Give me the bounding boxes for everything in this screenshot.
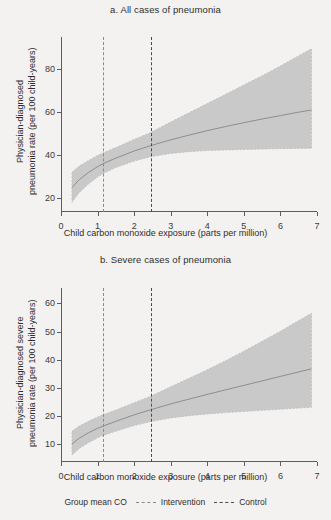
y-tick-label: 40 bbox=[45, 150, 55, 160]
panel-b-x-axis bbox=[61, 461, 317, 462]
panel-a-title: a. All cases of pneumonia bbox=[0, 4, 331, 15]
y-tick-label: 20 bbox=[45, 411, 55, 421]
panel-b-y-axis-label: Physician-diagnosed severe pneumonia rat… bbox=[14, 278, 38, 468]
x-tick bbox=[244, 462, 245, 466]
panel-b-x-axis-label: Child carbon monoxide exposure (parts pe… bbox=[0, 472, 331, 482]
x-tick bbox=[98, 212, 99, 216]
panel-b-data-layer bbox=[61, 288, 317, 462]
panel-b-title: b. Severe cases of pneumonia bbox=[0, 254, 331, 265]
x-tick bbox=[171, 462, 172, 466]
x-tick bbox=[171, 212, 172, 216]
y-tick bbox=[57, 444, 61, 445]
x-tick bbox=[207, 462, 208, 466]
reference-line-control bbox=[151, 37, 152, 212]
panel-b-svg bbox=[61, 288, 317, 462]
y-tick-label: 30 bbox=[45, 383, 55, 393]
x-tick bbox=[280, 212, 281, 216]
legend-title: Group mean CO bbox=[64, 497, 126, 507]
panel-a-data-layer bbox=[61, 37, 317, 212]
y-tick-label: 60 bbox=[45, 107, 55, 117]
y-tick-label: 80 bbox=[45, 64, 55, 74]
x-tick bbox=[317, 212, 318, 216]
panel-a-x-axis-label: Child carbon monoxide exposure (parts pe… bbox=[0, 228, 331, 238]
y-tick bbox=[57, 112, 61, 113]
panel-b-ci-band bbox=[72, 313, 312, 455]
y-tick bbox=[57, 416, 61, 417]
x-tick bbox=[244, 212, 245, 216]
y-tick-label: 40 bbox=[45, 355, 55, 365]
x-tick bbox=[98, 462, 99, 466]
y-tick-label: 60 bbox=[45, 298, 55, 308]
y-tick bbox=[57, 388, 61, 389]
panel-severe-cases: b. Severe cases of pneumonia Physician-d… bbox=[0, 250, 331, 485]
y-tick bbox=[57, 332, 61, 333]
panel-b-plot-area: 01234567 102030405060 bbox=[61, 288, 317, 462]
legend-dash-intervention-icon bbox=[136, 502, 156, 503]
reference-line-control bbox=[151, 288, 152, 462]
panel-a-y-axis-label: Physician-diagnosed pneumonia rate (per … bbox=[14, 26, 38, 216]
reference-line-intervention bbox=[103, 37, 104, 212]
y-tick bbox=[57, 69, 61, 70]
x-tick bbox=[280, 462, 281, 466]
panel-a-x-axis bbox=[61, 211, 317, 212]
panel-a-ci-band bbox=[72, 49, 312, 203]
x-tick bbox=[61, 462, 62, 466]
legend-label-intervention: Intervention bbox=[161, 497, 205, 507]
y-tick bbox=[57, 198, 61, 199]
y-tick-label: 20 bbox=[45, 193, 55, 203]
x-tick bbox=[134, 462, 135, 466]
y-tick bbox=[57, 303, 61, 304]
figure-container: a. All cases of pneumonia Physician-diag… bbox=[0, 0, 331, 520]
x-tick bbox=[317, 462, 318, 466]
legend-item-control: Control bbox=[214, 497, 266, 507]
y-tick bbox=[57, 155, 61, 156]
x-tick bbox=[134, 212, 135, 216]
reference-line-intervention bbox=[103, 288, 104, 462]
legend-item-intervention: Intervention bbox=[136, 497, 205, 507]
figure-legend: Group mean CO Intervention Control bbox=[0, 497, 331, 507]
x-tick bbox=[61, 212, 62, 216]
x-tick bbox=[207, 212, 208, 216]
panel-b-y-axis bbox=[61, 288, 62, 462]
y-tick bbox=[57, 360, 61, 361]
y-tick-label: 50 bbox=[45, 327, 55, 337]
panel-all-cases: a. All cases of pneumonia Physician-diag… bbox=[0, 0, 331, 250]
panel-a-svg bbox=[61, 37, 317, 212]
panel-a-y-axis bbox=[61, 37, 62, 212]
y-tick-label: 10 bbox=[45, 439, 55, 449]
legend-label-control: Control bbox=[239, 497, 266, 507]
panel-a-plot-area: 01234567 20406080 bbox=[61, 37, 317, 212]
legend-dash-control-icon bbox=[214, 502, 234, 503]
